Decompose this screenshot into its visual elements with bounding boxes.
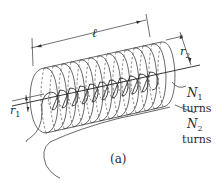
coil-axis — [12, 65, 200, 106]
outer-coil-back — [41, 42, 163, 133]
r2-dimension — [166, 32, 192, 65]
outer-coil-front — [30, 42, 175, 133]
n1-turns-text: turns — [182, 102, 212, 115]
figure-caption: (a) — [110, 152, 127, 166]
n2-turns-text: turns — [182, 133, 212, 146]
n1-label: N1 — [186, 86, 203, 102]
length-label: ℓ — [92, 26, 97, 40]
r2-label: r2 — [180, 45, 190, 60]
coaxial-solenoids-figure: ℓ — [0, 0, 221, 187]
n2-label: N2 — [186, 117, 203, 133]
r1-label: r1 — [10, 104, 20, 119]
